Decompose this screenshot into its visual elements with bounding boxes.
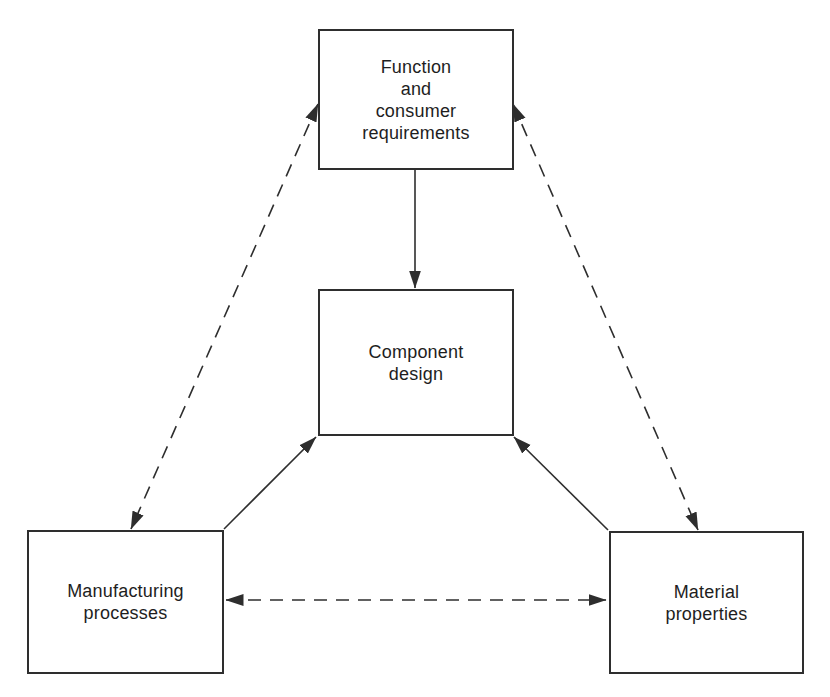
arrow-function-material-dashed — [513, 104, 698, 530]
node-label: Component design — [369, 341, 464, 385]
diagram-canvas: Function and consumer requirements Compo… — [0, 0, 830, 697]
node-label: Manufacturing processes — [67, 580, 184, 624]
arrow-manufacturing-to-design — [224, 437, 316, 529]
arrow-function-manufacturing-dashed — [131, 104, 318, 529]
node-function-consumer-requirements: Function and consumer requirements — [318, 29, 514, 170]
node-label: Function and consumer requirements — [362, 56, 469, 144]
node-label: Material properties — [665, 581, 747, 625]
node-component-design: Component design — [318, 289, 514, 436]
node-material-properties: Material properties — [609, 531, 804, 674]
node-manufacturing-processes: Manufacturing processes — [27, 530, 224, 674]
arrow-material-to-design — [514, 437, 608, 530]
